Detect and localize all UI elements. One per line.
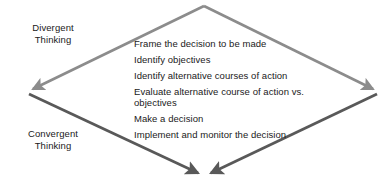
- divergent-thinking-label: Divergent Thinking: [18, 22, 88, 45]
- list-item: Identify objectives: [134, 54, 334, 65]
- list-item: Make a decision: [134, 113, 334, 124]
- convergent-thinking-label: Convergent Thinking: [14, 128, 92, 151]
- convergent-thinking-label-line1: Convergent: [14, 128, 92, 140]
- decision-steps-list: Frame the decision to be made Identify o…: [134, 38, 334, 140]
- divergent-thinking-label-line1: Divergent: [18, 22, 88, 34]
- list-item: Frame the decision to be made: [134, 38, 334, 49]
- list-item: Identify alternative courses of action: [134, 70, 334, 81]
- list-item: Evaluate alternative course of action vs…: [134, 86, 334, 109]
- divergent-thinking-label-line2: Thinking: [18, 34, 88, 46]
- list-item: Implement and monitor the decision: [134, 129, 334, 140]
- diagram-canvas: Divergent Thinking Convergent Thinking F…: [0, 0, 391, 182]
- convergent-thinking-label-line2: Thinking: [14, 140, 92, 152]
